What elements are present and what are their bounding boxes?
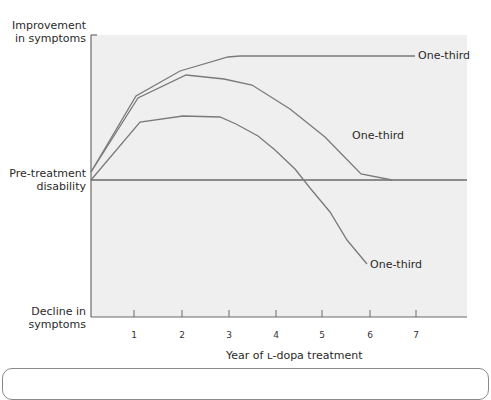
y-label-pretreatment-line1: Pre-treatment xyxy=(0,167,86,180)
y-label-decline-line1: Decline in xyxy=(0,305,86,318)
y-label-pretreatment: Pre-treatment disability xyxy=(0,167,86,193)
y-label-pretreatment-line2: disability xyxy=(0,180,86,193)
x-tick-label-6: 6 xyxy=(367,330,373,340)
y-label-improvement: Improvement in symptoms xyxy=(0,19,86,45)
x-tick-label-1: 1 xyxy=(131,330,137,340)
series-label-sustained: One-third xyxy=(418,49,470,62)
series-label-return-baseline: One-third xyxy=(352,129,404,142)
x-ticks xyxy=(134,310,416,317)
x-tick-label-7: 7 xyxy=(413,330,419,340)
x-axis-title: Year of ʟ-dopa treatment xyxy=(226,349,363,362)
x-tick-label-5: 5 xyxy=(319,330,325,340)
y-label-improvement-line2: in symptoms xyxy=(0,32,86,45)
y-label-decline-line2: symptoms xyxy=(0,318,86,331)
y-label-improvement-line1: Improvement xyxy=(0,19,86,32)
series-sustained-line xyxy=(91,56,415,172)
x-tick-label-4: 4 xyxy=(273,330,279,340)
caption-box-border xyxy=(2,368,489,400)
x-tick-label-3: 3 xyxy=(226,330,232,340)
y-label-decline: Decline in symptoms xyxy=(0,305,86,331)
series-label-decline: One-third xyxy=(370,258,422,271)
x-tick-label-2: 2 xyxy=(179,330,185,340)
